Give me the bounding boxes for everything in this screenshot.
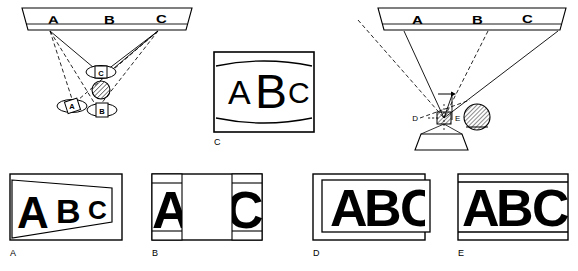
right-dashed-rays <box>358 20 488 118</box>
panel-d-letter-a: A <box>330 179 368 237</box>
right-solid-ray-1 <box>404 31 444 118</box>
right-projector-trapezoid <box>415 134 468 150</box>
left-viewer-a-label: A <box>69 102 75 111</box>
left-dashed-ray-2 <box>50 31 95 104</box>
left-viewer-c-label: C <box>98 69 104 78</box>
panel-label-b: B <box>152 248 158 258</box>
panel-d-letters: A B C <box>330 179 438 237</box>
left-solid-ray-2 <box>103 31 158 73</box>
right-screen-letter-c: C <box>522 13 533 25</box>
panel-a-letter-a: A <box>17 188 49 237</box>
left-viewer-b-label: B <box>99 107 105 116</box>
right-ray-diagram: A B C <box>358 8 566 150</box>
left-screen-letter-c: C <box>156 13 167 25</box>
panel-b: A C <box>152 174 264 240</box>
left-viewer-marker-b: B <box>87 103 117 117</box>
right-point-label-e: E <box>455 114 460 123</box>
panel-d-letter-c: C <box>400 179 438 237</box>
right-projector-left-edge <box>421 124 444 134</box>
right-projector-body <box>415 124 468 150</box>
left-lens-hatched-circle <box>92 81 110 99</box>
panel-c-letter-c: C <box>288 76 310 109</box>
right-arrow-head <box>451 92 456 97</box>
panel-e-letter-b: B <box>496 179 534 237</box>
right-projector-right-edge <box>444 124 462 134</box>
right-point-label-d: D <box>412 114 418 123</box>
panel-a-letter-b: B <box>56 192 81 230</box>
right-lens-circle <box>464 104 490 130</box>
panel-label-c: C <box>214 137 221 147</box>
projection-distortion-figure: A B C C <box>0 0 578 271</box>
panel-c-letter-a: A <box>228 73 251 111</box>
left-viewer-marker-a: A <box>57 98 87 113</box>
figure-canvas: A B C C <box>0 0 578 271</box>
panel-label-a: A <box>10 248 16 258</box>
right-solid-ray-2 <box>444 31 558 118</box>
right-screen-letter-b: B <box>472 14 483 26</box>
left-screen-letter-b: B <box>104 14 115 26</box>
right-dashed-ray-1 <box>358 20 444 118</box>
panel-d: A B C <box>313 174 438 240</box>
left-screen-letter-a: A <box>48 14 60 27</box>
left-viewer-marker-c: C <box>86 66 116 79</box>
panel-c-letter-b: B <box>255 65 287 118</box>
left-dashed-ray-3 <box>78 31 158 100</box>
right-screen-letter-a: A <box>412 14 423 26</box>
left-dashed-ray-1 <box>50 31 72 99</box>
panel-label-e: E <box>458 248 464 258</box>
panel-e-letter-c: C <box>532 179 570 237</box>
panel-d-letter-b: B <box>364 179 402 237</box>
left-ray-diagram: A B C C <box>22 8 192 117</box>
panel-label-d: D <box>313 248 320 258</box>
panel-e: A B C <box>458 174 570 240</box>
panel-a-letter-c: C <box>88 195 107 225</box>
panel-e-letter-a: A <box>462 179 500 237</box>
panel-c: A B C <box>214 52 314 132</box>
left-lens-circle <box>92 81 110 99</box>
panel-a: A B C <box>10 174 122 240</box>
